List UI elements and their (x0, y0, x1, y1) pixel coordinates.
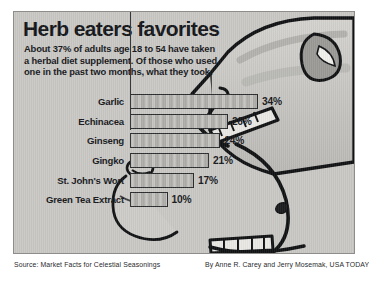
table-row: Green Tea Extract 10% (14, 190, 354, 210)
bar-chart: Garlic 34% Echinacea 26% Ginseng 24% Gin… (14, 92, 354, 210)
bar-ginseng (130, 133, 220, 148)
bar-category-label: Echinacea (14, 116, 130, 127)
bar-track: 21% (130, 151, 354, 171)
bar-track: 17% (130, 170, 354, 190)
eye-icon (301, 34, 340, 80)
bar-gingko (130, 153, 209, 168)
bar-category-label: Garlic (14, 96, 130, 107)
bar-category-label: Gingko (14, 155, 130, 166)
table-row: Gingko 21% (14, 151, 354, 171)
table-row: St. John's Wort 17% (14, 170, 354, 190)
bar-track: 26% (130, 112, 354, 132)
byline-credit: By Anne R. Carey and Jerry Mosemak, USA … (205, 261, 369, 268)
bar-value-label: 21% (213, 155, 233, 166)
brow-shading (240, 34, 344, 60)
lower-teeth (210, 236, 273, 253)
table-row: Ginseng 24% (14, 131, 354, 151)
bar-value-label: 26% (232, 116, 252, 127)
bar-category-label: St. John's Wort (14, 175, 130, 186)
source-credit: Source: Market Facts for Celestial Seaso… (14, 261, 160, 268)
bar-category-label: Ginseng (14, 135, 130, 146)
bar-value-label: 34% (262, 96, 282, 107)
bar-value-label: 10% (172, 194, 192, 205)
cheek-shading (246, 68, 346, 82)
bar-track: 34% (130, 92, 354, 112)
bar-track: 24% (130, 131, 354, 151)
bar-echinacea (130, 114, 228, 129)
bar-value-label: 17% (198, 175, 218, 186)
bar-category-label: Green Tea Extract (14, 194, 130, 205)
bar-green-tea-extract (130, 192, 168, 207)
eye-highlight (317, 46, 335, 66)
table-row: Garlic 34% (14, 92, 354, 112)
bar-st-johns-wort (130, 173, 194, 188)
table-row: Echinacea 26% (14, 112, 354, 132)
bar-track: 10% (130, 190, 354, 210)
bar-value-label: 24% (224, 135, 244, 146)
deck-text: About 37% of adults age 18 to 54 have ta… (24, 43, 220, 78)
infographic-panel: Herb eaters favorites About 37% of adult… (13, 11, 355, 254)
bar-garlic (130, 94, 258, 109)
lower-lip (210, 246, 304, 252)
page-title: Herb eaters favorites (23, 17, 219, 41)
